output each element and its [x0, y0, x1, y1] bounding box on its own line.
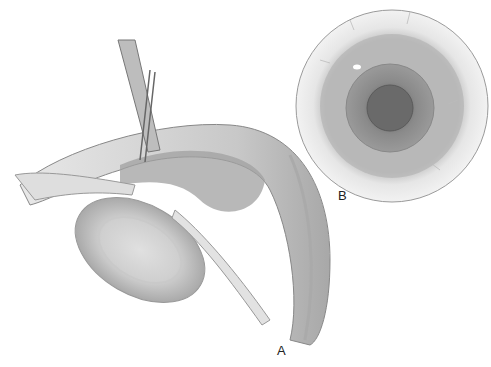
panel-label-b: B	[338, 188, 347, 203]
panel-b-eye	[296, 10, 488, 202]
eye-illustration	[0, 0, 491, 367]
panel-a-cross-section	[15, 40, 330, 345]
illustration: A B	[0, 0, 491, 367]
panel-label-a: A	[277, 343, 286, 358]
